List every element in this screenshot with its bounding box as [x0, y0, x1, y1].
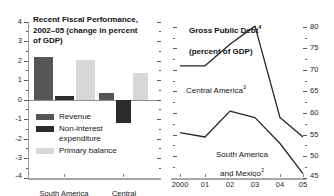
right-mirror-minor-tick: [173, 81, 175, 82]
left-mirror-minor-tick: [159, 31, 161, 32]
right-mirror-tick: [173, 48, 177, 49]
series-label-central-america-text: Central America: [186, 86, 243, 95]
left-mirror-minor-tick: [159, 148, 161, 149]
right-mirror-tick: [173, 70, 177, 71]
left-chart-title: Recent Fiscal Performance, 2002–05 (chan…: [33, 15, 161, 47]
legend-label-primary: Primary balance: [59, 146, 117, 156]
left-ytick-neg4: [24, 178, 28, 179]
right-xtick-2000: [180, 174, 181, 177]
legend-swatch-primary: [36, 148, 54, 154]
right-xtick-03: [255, 174, 256, 177]
right-mirror-minor-tick: [173, 145, 175, 146]
right-xtick-label-2000: 2000: [169, 181, 191, 189]
right-xtick-label-05: 05: [295, 181, 311, 189]
left-ytick-label-neg4: -4: [2, 172, 22, 180]
left-ytick-label-3: 3: [4, 37, 22, 45]
left-yminor-tick: [26, 31, 28, 32]
right-xtick-label-02: 02: [222, 181, 238, 189]
footnote-marker-2b: 2: [261, 167, 264, 173]
left-yminor-tick: [26, 70, 28, 71]
right-chart-title-text: Gross Public Debt: [189, 26, 258, 35]
left-mirror-minor-tick: [159, 109, 161, 110]
left-mirror-minor-tick: [159, 51, 161, 52]
left-ytick-1: [24, 80, 28, 81]
right-ytick-45: [303, 178, 307, 179]
right-mirror-minor-tick: [173, 59, 175, 60]
left-xtick-central-america: [123, 174, 124, 177]
right-mirror-minor-tick: [173, 38, 175, 39]
left-ytick-label-neg2: -2: [2, 135, 22, 143]
left-ytick-neg3: [24, 158, 28, 159]
right-ytick-65: [303, 91, 307, 92]
left-ytick-3: [24, 41, 28, 42]
bar-nonint-central-america: [116, 100, 131, 123]
left-ytick-label-neg1: -1: [2, 115, 22, 123]
right-yminor-tick: [305, 145, 307, 146]
left-zero-line: [28, 100, 161, 101]
right-xtick-label-04: 04: [272, 181, 288, 189]
series-label-south-america-line1: South America: [216, 150, 268, 159]
right-mirror-minor-tick: [173, 124, 175, 125]
left-ytick-label-neg3: -3: [2, 154, 22, 162]
right-ytick-80: [303, 27, 307, 28]
right-yminor-tick: [305, 38, 307, 39]
right-ytick-label-50: 50: [310, 152, 318, 160]
series-label-central-america: Central America3: [186, 76, 246, 95]
right-mirror-tick: [173, 27, 177, 28]
right-yminor-tick: [305, 102, 307, 103]
left-mirror-tick: [157, 100, 161, 101]
bar-revenue-south-america: [34, 57, 53, 100]
bar-primary-central-america: [133, 73, 148, 100]
bar-primary-south-america: [76, 60, 95, 100]
right-ytick-label-75: 75: [310, 44, 318, 52]
legend-item-revenue: Revenue: [36, 112, 91, 122]
right-mirror-tick: [173, 135, 177, 136]
left-mirror-tick: [157, 41, 161, 42]
category-label-south-america-line1: South America: [40, 189, 89, 196]
left-mirror-tick: [157, 139, 161, 140]
right-ytick-75: [303, 48, 307, 49]
right-ytick-label-80: 80: [310, 23, 318, 31]
footnote-marker-3: 3: [243, 84, 246, 90]
left-mirror-minor-tick: [159, 129, 161, 130]
right-yminor-tick: [305, 124, 307, 125]
left-yminor-tick: [26, 51, 28, 52]
left-ytick-neg1: [24, 119, 28, 120]
right-x-axis: [171, 178, 306, 180]
left-mirror-tick: [157, 80, 161, 81]
right-ytick-50: [303, 156, 307, 157]
bar-revenue-central-america: [99, 93, 114, 100]
left-ytick-neg2: [24, 139, 28, 140]
left-mirror-minor-tick: [159, 70, 161, 71]
right-ytick-label-60: 60: [310, 109, 318, 117]
left-mirror-tick: [157, 22, 161, 23]
left-yminor-tick: [26, 109, 28, 110]
right-mirror-tick: [173, 156, 177, 157]
line-chart-panel: Gross Public Debt4 (percent of GDP) 80 7…: [167, 0, 334, 196]
right-xtick-label-03: 03: [247, 181, 263, 189]
right-xtick-04: [280, 174, 281, 177]
left-ytick-label-4: 4: [4, 18, 22, 26]
legend-item-nonint: Non-interest expenditure: [36, 124, 103, 143]
right-mirror-minor-tick: [173, 102, 175, 103]
right-xtick-02: [230, 174, 231, 177]
left-mirror-tick: [157, 119, 161, 120]
right-mirror-tick: [173, 113, 177, 114]
footnote-marker-4: 4: [258, 24, 261, 30]
category-label-central-america-line1: Central: [112, 189, 136, 196]
right-mirror-tick: [173, 91, 177, 92]
right-xtick-05: [303, 174, 304, 177]
left-xtick-south-america: [64, 174, 65, 177]
right-xtick-label-01: 01: [197, 181, 213, 189]
left-yminor-tick: [26, 129, 28, 130]
left-ytick-2: [24, 61, 28, 62]
right-ytick-label-45: 45: [310, 172, 318, 180]
right-ytick-70: [303, 70, 307, 71]
legend-swatch-revenue: [36, 114, 54, 120]
right-chart-title: Gross Public Debt4 (percent of GDP): [189, 15, 309, 57]
right-ytick-60: [303, 113, 307, 114]
left-mirror-tick: [157, 61, 161, 62]
right-chart-subtitle: (percent of GDP): [189, 47, 253, 56]
right-yminor-tick: [305, 81, 307, 82]
right-ytick-label-65: 65: [310, 87, 318, 95]
